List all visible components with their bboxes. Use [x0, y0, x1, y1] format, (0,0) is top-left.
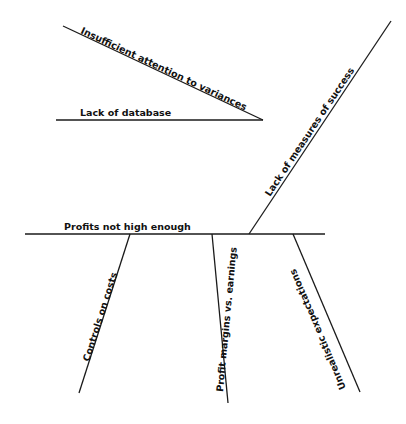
label-lack-of-measures: Lack of measures of success: [263, 65, 357, 198]
label-insufficient-attention: Insufficient attention to variances: [79, 25, 249, 113]
label-effect-profits: Profits not high enough: [64, 221, 191, 232]
label-profit-margins: Profit margins vs. earnings: [214, 246, 239, 392]
line-unrealistic-expectations: [293, 234, 360, 392]
fishbone-diagram: Insufficient attention to variances Lack…: [0, 0, 406, 424]
label-lack-of-database: Lack of database: [80, 107, 171, 118]
label-unrealistic-expectations: Unrealistic expectations: [287, 267, 348, 391]
line-lack-of-measures: [249, 21, 391, 234]
label-controls-on-costs: Controls on costs: [80, 271, 119, 363]
